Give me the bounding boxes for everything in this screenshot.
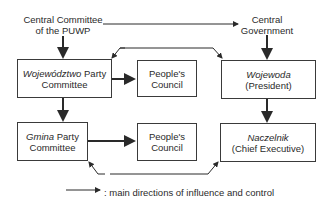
- gmina-italic: Gmina: [26, 131, 54, 142]
- wojewodztwo-line2: Committee: [42, 79, 88, 90]
- naczelnik-box: Naczelnik (Chief Executive): [220, 123, 316, 162]
- wojewodztwo-italic: Województwo: [23, 68, 82, 79]
- wojewoda-line1: Wojewoda: [246, 69, 290, 80]
- arrow-bottom-loop-right: [110, 162, 218, 174]
- legend-text: : main directions of influence and contr…: [104, 187, 274, 198]
- gmina-line2: Committee: [30, 142, 76, 153]
- arrow-top-loop-left: [112, 48, 125, 58]
- council1-line2: Council: [151, 79, 183, 90]
- wojewoda-line2: (President): [245, 80, 291, 91]
- wojewoda-box: Wojewoda (President): [221, 60, 316, 99]
- wojewodztwo-line1: Województwo Party: [23, 68, 106, 79]
- council2-line1: People's: [149, 131, 185, 142]
- cc-line1: Central Committee: [22, 14, 104, 25]
- gmina-line1: Gmina Party: [26, 131, 79, 142]
- wojewodztwo-party-committee-box: Województwo Party Committee: [17, 59, 112, 98]
- cc-line2: of the PUWP: [22, 25, 104, 36]
- council1-line1: People's: [149, 68, 185, 79]
- gmina-party-committee-box: Gmina Party Committee: [17, 122, 88, 161]
- naczelnik-line2: (Chief Executive): [232, 143, 304, 154]
- peoples-council-box-2: People's Council: [137, 123, 197, 161]
- naczelnik-line1: Naczelnik: [247, 132, 288, 143]
- peoples-council-box-1: People's Council: [137, 60, 197, 97]
- gmina-rest: Party: [54, 131, 79, 142]
- gov-line2: Government: [236, 25, 298, 36]
- gov-line1: Central: [236, 14, 298, 25]
- arrow-bottom-loop-left: [89, 162, 105, 174]
- central-committee-label: Central Committee of the PUWP: [22, 14, 104, 36]
- central-government-label: Central Government: [236, 14, 298, 36]
- arrow-top-loop: [120, 48, 222, 58]
- wojewodztwo-rest: Party: [81, 68, 106, 79]
- council2-line2: Council: [151, 142, 183, 153]
